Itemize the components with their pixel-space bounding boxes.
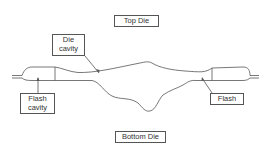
bottom-die-label: Bottom Die bbox=[115, 131, 166, 143]
right-flash-bottom bbox=[212, 78, 250, 81]
flash-label: Flash bbox=[210, 93, 244, 105]
flash-cavity-arrowhead-icon bbox=[37, 77, 40, 81]
left-flash-bottom bbox=[22, 78, 92, 81]
die-cavity-leader bbox=[85, 56, 99, 73]
cavity-lower-contour bbox=[92, 80, 212, 111]
flash-cavity-label: Flash cavity bbox=[20, 93, 55, 114]
die-cavity-label: Die cavity bbox=[52, 34, 85, 56]
right-flash-top bbox=[212, 67, 250, 76]
left-flash-top bbox=[22, 67, 78, 76]
top-die-label: Top Die bbox=[114, 15, 159, 27]
right-flash-tab bbox=[250, 76, 259, 79]
forging-diagram: Top Die Die cavity Flash cavity Flash Bo… bbox=[0, 0, 271, 152]
left-flash-tab bbox=[12, 76, 22, 79]
